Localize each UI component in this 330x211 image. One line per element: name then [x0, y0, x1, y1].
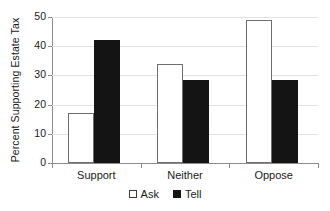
x-axis-label-support: Support [52, 168, 141, 182]
legend-label-tell: Tell [185, 188, 202, 200]
x-axis-tick-mark [318, 163, 319, 168]
legend-item-tell[interactable]: Tell [173, 188, 202, 200]
x-axis-line [52, 163, 319, 164]
y-axis-tick-label: 10 [20, 128, 46, 139]
y-axis-title: Percent Supporting Estate Tax [6, 17, 24, 163]
gridline [52, 46, 318, 47]
y-axis-tick-label-wrap: 50 [0, 11, 46, 22]
bar-support-tell[interactable] [94, 40, 120, 163]
y-axis-tick-label-wrap: 0 [0, 157, 46, 168]
y-axis-tick-label-wrap: 20 [0, 99, 46, 110]
x-axis-label-neither: Neither [141, 168, 230, 182]
legend-item-ask[interactable]: Ask [129, 188, 159, 200]
y-axis-tick-label: 20 [20, 99, 46, 110]
x-axis-tick-mark [52, 163, 53, 168]
bar-oppose-tell[interactable] [272, 80, 298, 163]
y-axis-tick-label-wrap: 30 [0, 69, 46, 80]
bar-oppose-ask[interactable] [246, 20, 272, 163]
y-axis-tick-label-wrap: 40 [0, 40, 46, 51]
x-axis-label-oppose: Oppose [229, 168, 318, 182]
chart-legend: Ask Tell [0, 188, 330, 200]
legend-label-ask: Ask [141, 188, 159, 200]
bar-chart-figure: Percent Supporting Estate Tax 0102030405… [0, 0, 330, 211]
gridline [52, 17, 318, 18]
plot-area [52, 17, 318, 163]
bar-neither-tell[interactable] [183, 80, 209, 163]
y-axis-tick-label: 0 [20, 157, 46, 168]
bar-neither-ask[interactable] [157, 64, 183, 163]
gridline [52, 75, 318, 76]
y-axis-tick-label-wrap: 10 [0, 128, 46, 139]
black-square-swatch [173, 190, 181, 198]
bar-support-ask[interactable] [68, 113, 94, 163]
y-axis-tick-label: 40 [20, 40, 46, 51]
y-axis-tick-label: 50 [20, 11, 46, 22]
white-square-swatch [129, 190, 137, 198]
y-axis-tick-label: 30 [20, 69, 46, 80]
